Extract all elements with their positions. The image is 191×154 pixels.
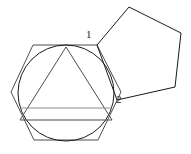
vertex-label-1: 1 bbox=[86, 29, 92, 40]
vertex-label-2: 2 bbox=[116, 94, 122, 105]
pentagon-shape bbox=[97, 7, 181, 100]
geometry-figure: 1 2 bbox=[0, 0, 191, 154]
inscribed-circle-shape bbox=[18, 45, 114, 141]
hexagon-shape bbox=[11, 45, 121, 140]
geometry-canvas bbox=[0, 0, 191, 154]
